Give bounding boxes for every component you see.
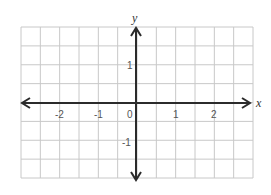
x-tick-label-1: 1 <box>173 109 179 120</box>
x-tick-label-2: 2 <box>211 109 217 120</box>
x-axis-label: x <box>255 96 262 110</box>
y-axis-label: y <box>131 11 138 25</box>
origin-label: 0 <box>127 109 133 120</box>
y-tick-label-1: 1 <box>127 60 133 71</box>
x-tick-label-neg1: -1 <box>94 109 103 120</box>
coordinate-plane: x y -2 -1 0 1 2 1 -1 <box>0 0 271 195</box>
x-tick-label-neg2: -2 <box>55 109 64 120</box>
y-tick-label-neg1: -1 <box>122 137 131 148</box>
